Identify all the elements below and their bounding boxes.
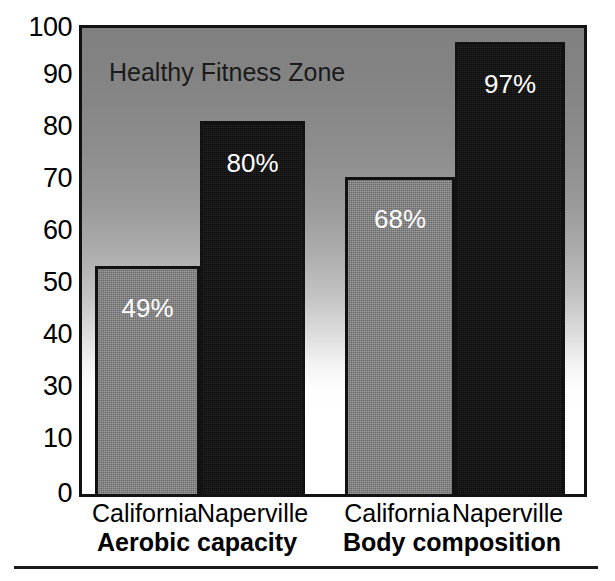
- y-tick-label-70: 70: [0, 165, 72, 192]
- bar-aerobic-naperville: 80%: [200, 121, 305, 494]
- y-tick-label-100: 100: [0, 14, 72, 41]
- y-tick-label-40: 40: [0, 321, 72, 348]
- y-tick-label-90: 90: [0, 61, 72, 88]
- bar-value-body-california: 68%: [348, 206, 452, 232]
- y-tick-label-60: 60: [0, 217, 72, 244]
- bar-value-aerobic-naperville: 80%: [203, 150, 302, 176]
- y-tick-label-80: 80: [0, 113, 72, 140]
- bar-value-aerobic-california: 49%: [98, 295, 197, 321]
- healthy-fitness-zone-annotation: Healthy Fitness Zone: [109, 60, 345, 85]
- bar-value-body-naperville: 97%: [458, 71, 562, 97]
- y-tick-label-10: 10: [0, 425, 72, 452]
- bottom-divider-rule: [14, 566, 598, 569]
- bar-body-california: 68%: [345, 177, 455, 494]
- category-label-aerobic-california: California: [92, 500, 197, 527]
- category-label-aerobic-naperville: Naperville: [197, 500, 302, 527]
- y-axis: 100 90 80 70 60 50 40 30 10 0: [0, 0, 72, 581]
- group-label-aerobic-capacity: Aerobic capacity: [92, 529, 302, 556]
- bar-body-naperville: 97%: [455, 42, 565, 494]
- group-label-body-composition: Body composition: [342, 529, 562, 556]
- category-label-body-naperville: Naperville: [452, 500, 562, 527]
- y-tick-label-30: 30: [0, 373, 72, 400]
- y-tick-label-0: 0: [0, 480, 72, 507]
- y-tick-label-50: 50: [0, 269, 72, 296]
- plot-area: Healthy Fitness Zone 49% 80% 68% 97%: [79, 25, 587, 497]
- category-label-body-california: California: [342, 500, 452, 527]
- bar-aerobic-california: 49%: [95, 266, 200, 494]
- bar-chart: 100 90 80 70 60 50 40 30 10 0 Healthy Fi…: [0, 0, 615, 581]
